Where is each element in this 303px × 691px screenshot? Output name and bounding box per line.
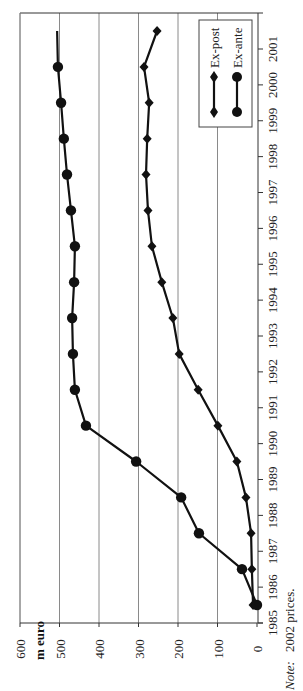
- circle-marker-icon: [68, 349, 78, 359]
- diamond-marker-icon: [247, 528, 256, 538]
- circle-marker-icon: [66, 205, 76, 215]
- year-tick-label: 1989: [265, 467, 280, 493]
- value-tick-label: 300: [132, 639, 147, 659]
- year-tick-label: 1987: [265, 538, 280, 565]
- diamond-marker-icon: [143, 205, 152, 215]
- diamond-marker-icon: [153, 26, 162, 36]
- chart-canvas: 0100200300400500600 19851986198719881989…: [0, 0, 303, 691]
- year-tick-label: 1986: [265, 574, 280, 601]
- circle-marker-icon: [232, 72, 242, 82]
- note: Note: 2002 prices.: [282, 588, 297, 691]
- year-tick-label: 1992: [265, 359, 280, 385]
- diamond-marker-icon: [175, 349, 184, 359]
- value-tick-label: 200: [171, 639, 186, 659]
- diamond-marker-icon: [143, 134, 152, 144]
- circle-marker-icon: [232, 107, 242, 117]
- year-tick-label: 1990: [265, 431, 280, 457]
- year-tick-label: 2000: [265, 72, 280, 98]
- diamond-marker-icon: [168, 313, 177, 323]
- diamond-marker-icon: [241, 492, 250, 502]
- value-axis-ticks: 0100200300400500600: [13, 623, 265, 659]
- circle-marker-icon: [252, 600, 262, 610]
- diamond-marker-icon: [145, 98, 154, 108]
- circle-marker-icon: [56, 98, 66, 108]
- year-tick-label: 1991: [265, 395, 280, 421]
- diamond-marker-icon: [232, 457, 241, 467]
- unit-label: m euro: [32, 621, 47, 660]
- circle-marker-icon: [59, 133, 69, 143]
- value-tick-label: 100: [211, 639, 226, 659]
- value-tick-label: 600: [13, 639, 28, 659]
- year-tick-label: 1993: [265, 323, 280, 349]
- value-tick-label: 500: [53, 639, 68, 659]
- diamond-marker-icon: [142, 170, 151, 180]
- diamond-marker-icon: [157, 277, 166, 287]
- year-tick-label: 1995: [265, 251, 280, 277]
- circle-marker-icon: [194, 528, 204, 538]
- circle-marker-icon: [70, 241, 80, 251]
- circle-marker-icon: [131, 456, 141, 466]
- year-tick-label: 1988: [265, 502, 280, 528]
- year-tick-label: 1998: [265, 144, 280, 170]
- circle-marker-icon: [67, 313, 77, 323]
- circle-marker-icon: [62, 169, 72, 179]
- year-axis-ticks: 1985198619871988198919901991199219931994…: [258, 36, 280, 636]
- year-tick-label: 1994: [265, 287, 280, 314]
- note-prefix: Note:: [282, 661, 297, 691]
- year-tick-label: 1997: [265, 179, 280, 206]
- gridlines: [20, 13, 218, 623]
- value-tick-label: 400: [92, 639, 107, 659]
- year-tick-label: 1999: [265, 108, 280, 134]
- diamond-marker-icon: [147, 241, 156, 251]
- legend-label-ex-ante: Ex-ante: [230, 27, 245, 68]
- year-tick-label: 1985: [265, 610, 280, 636]
- circle-marker-icon: [81, 420, 91, 430]
- circle-marker-icon: [69, 277, 79, 287]
- note-text: 2002 prices.: [282, 588, 297, 652]
- legend-label-ex-post: Ex-post: [207, 27, 222, 68]
- circle-marker-icon: [176, 492, 186, 502]
- diamond-marker-icon: [247, 564, 256, 574]
- legend: Ex-post Ex-ante: [199, 20, 252, 127]
- circle-marker-icon: [70, 385, 80, 395]
- year-tick-label: 1996: [265, 215, 280, 242]
- year-tick-label: 2001: [265, 36, 280, 62]
- circle-marker-icon: [237, 564, 247, 574]
- diamond-marker-icon: [140, 62, 149, 72]
- value-tick-label: 0: [250, 646, 265, 653]
- circle-marker-icon: [53, 62, 63, 72]
